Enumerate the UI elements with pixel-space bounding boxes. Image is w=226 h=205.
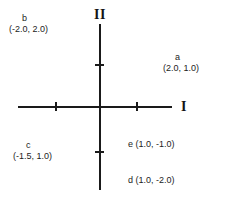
point-label-c-coords: (-1.5, 1.0) — [13, 151, 52, 162]
point-label-a-coords: (2.0, 1.0) — [163, 63, 199, 74]
horizontal-axis — [18, 106, 172, 108]
axis-label-horizontal: I — [181, 100, 187, 114]
point-label-c: c (-1.5, 1.0) — [13, 140, 52, 162]
point-label-b: b (-2.0, 2.0) — [9, 13, 48, 35]
point-label-c-name: c — [26, 140, 52, 151]
point-label-a-name: a — [175, 52, 199, 63]
point-label-b-name: b — [22, 13, 48, 24]
point-label-d-text: d (1.0, -2.0) — [128, 175, 175, 185]
y-axis-tick-negative — [95, 151, 104, 153]
axis-label-vertical: II — [94, 8, 106, 22]
point-label-b-coords: (-2.0, 2.0) — [9, 24, 48, 35]
x-axis-tick-positive — [136, 102, 138, 111]
point-label-a: a (2.0, 1.0) — [163, 52, 199, 74]
point-label-e-text: e (1.0, -1.0) — [128, 139, 175, 149]
point-label-d: d (1.0, -2.0) — [128, 175, 175, 186]
point-label-e: e (1.0, -1.0) — [128, 139, 175, 150]
x-axis-tick-negative — [55, 102, 57, 111]
vertical-axis — [99, 24, 101, 190]
y-axis-tick-positive — [95, 64, 104, 66]
coordinate-plane-diagram: I II b (-2.0, 2.0) a (2.0, 1.0) c (-1.5,… — [0, 0, 226, 205]
